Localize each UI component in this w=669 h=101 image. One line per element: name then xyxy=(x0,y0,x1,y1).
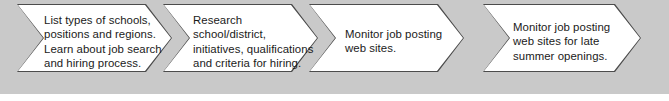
bottom-white-strip xyxy=(0,94,669,101)
stage-4-text: Monitor job posting web sites for late s… xyxy=(513,20,635,63)
month-axis-bar: Sep Oct Nov Dec Jan Feb Mar Apr May Jun-… xyxy=(0,73,669,94)
chevron-row: List types of schools, positions and reg… xyxy=(0,0,669,74)
stage-3-text: Monitor job posting web sites. xyxy=(345,27,465,56)
stage-1-text: List types of schools, positions and reg… xyxy=(44,13,164,71)
job-search-timeline-figure: List types of schools, positions and reg… xyxy=(0,0,669,101)
